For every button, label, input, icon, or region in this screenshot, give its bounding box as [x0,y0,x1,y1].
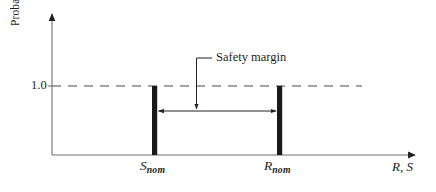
s-nom-subscript: nom [147,164,165,175]
safety-margin-leader-line [197,58,213,109]
x-marker-label-r-nom: Rnom [264,159,291,174]
bar-s-nom [152,86,157,155]
x-axis-label: R, S [392,160,413,173]
safety-margin-figure: Probability of occurrence 1.0 Snom Rnom … [0,0,436,192]
bar-r-nom [277,86,282,155]
x-marker-label-s-nom: Snom [140,159,165,174]
x-axis-label-var1: R [392,159,400,174]
s-nom-symbol: S [140,158,147,173]
safety-margin-annotation-label: Safety margin [216,51,286,64]
y-axis-label: Probability of occurrence [10,0,28,26]
r-nom-symbol: R [264,158,272,173]
x-axis-label-var2: S [406,159,413,174]
y-axis-tick-label: 1.0 [31,79,47,92]
r-nom-subscript: nom [272,164,290,175]
figure-canvas [0,0,436,192]
